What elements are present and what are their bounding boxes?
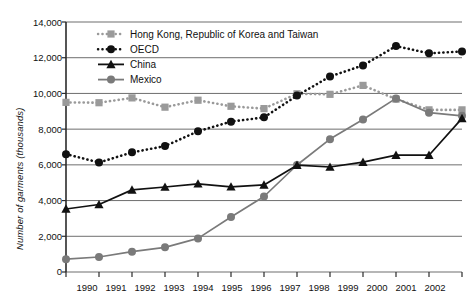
data-point — [161, 243, 169, 251]
legend-marker — [107, 30, 114, 37]
data-point — [359, 82, 366, 89]
data-point — [128, 148, 136, 156]
axis-ticks — [62, 22, 462, 277]
legend-item[interactable]: China — [98, 59, 157, 70]
data-point — [359, 61, 367, 69]
data-point — [392, 94, 400, 102]
series-line — [66, 46, 462, 162]
data-point — [260, 105, 267, 112]
y-tick-label-12000: 12,000 — [12, 52, 62, 63]
data-point — [194, 97, 201, 104]
data-point — [227, 118, 235, 126]
series-layer — [61, 42, 466, 263]
data-point — [326, 72, 334, 80]
data-point — [62, 150, 70, 158]
data-point — [194, 234, 202, 242]
data-point — [326, 135, 334, 143]
data-point — [425, 109, 433, 117]
plot-area: Hong Kong, Republic of Korea and TaiwanO… — [0, 0, 475, 304]
y-tick-label-6000: 6,000 — [12, 159, 62, 170]
data-point — [95, 99, 102, 106]
data-point — [161, 104, 168, 111]
series-line — [66, 98, 462, 259]
legend-item[interactable]: OECD — [98, 44, 159, 55]
legend-label: Mexico — [130, 74, 162, 85]
data-point — [227, 103, 234, 110]
legend-label: Hong Kong, Republic of Korea and Taiwan — [130, 29, 318, 40]
chart-legend: Hong Kong, Republic of Korea and TaiwanO… — [98, 29, 318, 86]
data-point — [62, 99, 69, 106]
data-point — [194, 127, 202, 135]
legend-label: OECD — [130, 44, 159, 55]
legend-marker — [107, 76, 115, 84]
data-point — [95, 253, 103, 261]
legend-item[interactable]: Hong Kong, Republic of Korea and Taiwan — [98, 29, 318, 40]
y-tick-label-4000: 4,000 — [12, 195, 62, 206]
garments-line-chart: Number of garments (thousands) 14,000 12… — [0, 0, 475, 304]
data-point — [128, 248, 136, 256]
legend-item[interactable]: Mexico — [98, 74, 162, 85]
data-point — [161, 142, 169, 150]
data-point — [62, 255, 70, 263]
data-point — [227, 213, 235, 221]
y-tick-label-2000: 2,000 — [12, 231, 62, 242]
data-point — [260, 113, 268, 121]
y-tick-label-8000: 8,000 — [12, 124, 62, 135]
legend-marker — [107, 45, 115, 53]
y-tick-label-0: 0 — [12, 266, 62, 277]
data-point — [458, 47, 466, 55]
data-point — [95, 159, 103, 167]
gridlines — [66, 22, 462, 272]
series-oecd — [62, 42, 466, 166]
data-point — [260, 192, 268, 200]
data-point — [425, 49, 433, 57]
data-point — [128, 94, 135, 101]
y-tick-label-10000: 10,000 — [12, 88, 62, 99]
data-point — [392, 42, 400, 50]
x-tick-label-2002: 2002 — [413, 282, 457, 293]
data-point — [326, 91, 333, 98]
y-tick-label-14000: 14,000 — [12, 17, 62, 28]
series-hong-kong-republic-of-korea-and-taiwan — [62, 82, 465, 114]
data-point — [359, 116, 367, 124]
legend-label: China — [130, 59, 157, 70]
data-point — [293, 92, 301, 100]
